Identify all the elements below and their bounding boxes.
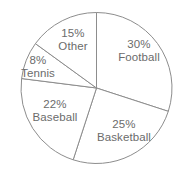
pie-chart-figure: 30%Football25%Basketball22%Baseball8%Ten…	[0, 0, 188, 180]
pie-chart-svg	[0, 0, 188, 180]
